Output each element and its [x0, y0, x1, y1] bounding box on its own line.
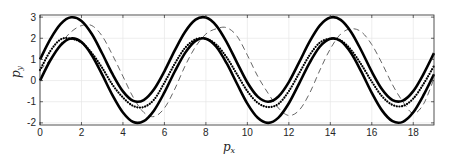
x-tick-label: 18 — [408, 127, 420, 138]
x-tick-label: 6 — [162, 127, 168, 138]
y-tick-label: 2 — [30, 33, 36, 44]
y-tick-label: 1 — [30, 54, 36, 65]
x-tick-label: 12 — [283, 127, 295, 138]
x-tick-label: 10 — [242, 127, 254, 138]
y-tick-label: 3 — [30, 12, 36, 23]
x-tick-label: 0 — [37, 127, 43, 138]
y-tick-label: 0 — [30, 75, 36, 86]
x-axis-ticks: 024681012141618 — [37, 15, 419, 138]
x-tick-label: 4 — [120, 127, 126, 138]
x-tick-label: 8 — [203, 127, 209, 138]
y-tick-label: -2 — [27, 117, 36, 128]
x-tick-label: 2 — [79, 127, 85, 138]
plot-series — [40, 17, 434, 123]
x-tick-label: 16 — [366, 127, 378, 138]
line-chart: 024681012141618 -2-10123 px py — [0, 0, 451, 159]
x-axis-label: px — [223, 140, 236, 155]
y-axis-label: py — [9, 65, 24, 78]
x-tick-label: 14 — [325, 127, 337, 138]
y-tick-label: -1 — [27, 96, 36, 107]
